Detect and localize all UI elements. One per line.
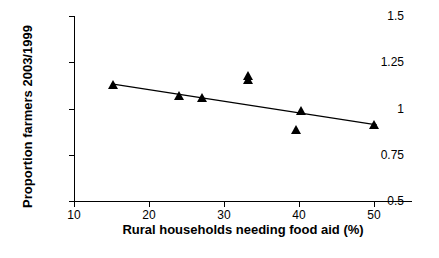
x-tick-label-0: 10 [67,208,80,222]
chart-container: Proportion farmers 2003/1999 0.5 0.75 1 … [0,0,439,258]
x-tick-label-4: 50 [367,208,380,222]
data-point [369,120,379,129]
x-tick-label-1: 20 [142,208,155,222]
data-point [291,125,301,134]
data-point [197,93,207,102]
x-tick-0 [74,202,75,207]
x-axis-title: Rural households needing food aid (%) [74,222,412,237]
x-tick-3 [299,202,300,207]
plot-area: 0.5 0.75 1 1.25 1.5 10 20 30 40 50 [74,16,412,202]
y-axis-title: Proportion farmers 2003/1999 [20,17,35,217]
data-point [296,106,306,115]
x-tick-4 [374,202,375,207]
data-point [108,80,118,89]
x-tick-label-3: 40 [292,208,305,222]
x-tick-1 [149,202,150,207]
data-point [243,75,253,84]
data-point [174,91,184,100]
x-tick-label-2: 30 [217,208,230,222]
trendline [74,16,412,202]
x-tick-2 [224,202,225,207]
